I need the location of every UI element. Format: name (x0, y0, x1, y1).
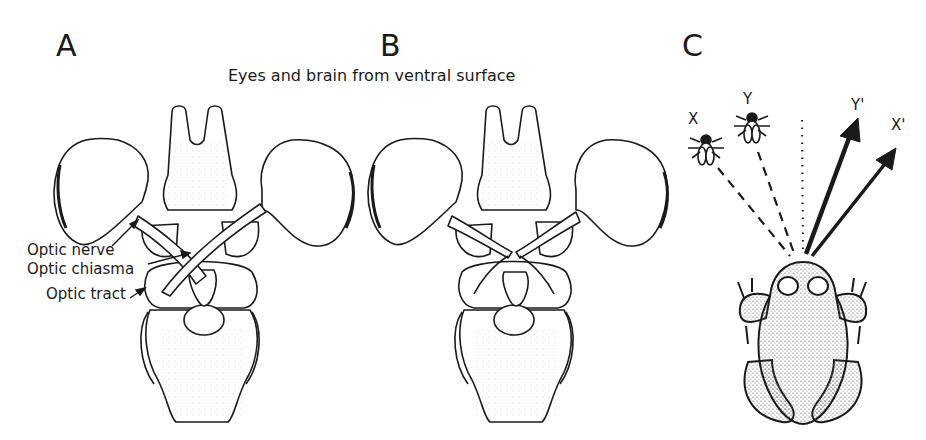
fly-icon-x (688, 135, 724, 165)
diagram-artwork (0, 0, 926, 440)
right-eye-a (261, 140, 353, 246)
fly-icon-y (734, 113, 770, 143)
label-optic-tract: Optic tract (46, 287, 126, 302)
label-target-y-prime: Y' (851, 98, 864, 113)
label-target-y: Y (743, 92, 752, 107)
label-optic-chiasma: Optic chiasma (27, 262, 134, 277)
right-eye-b (575, 140, 667, 246)
midline-dotted (802, 120, 803, 254)
sight-line-y (758, 152, 795, 256)
sight-line-x (718, 168, 790, 256)
label-target-x-prime: X' (891, 118, 905, 133)
strike-arrow-y-prime (806, 118, 860, 254)
frog-illustration (738, 262, 866, 424)
label-optic-nerve: Optic nerve (27, 243, 114, 258)
left-eye-b (368, 138, 462, 244)
label-target-x: X (688, 112, 698, 127)
